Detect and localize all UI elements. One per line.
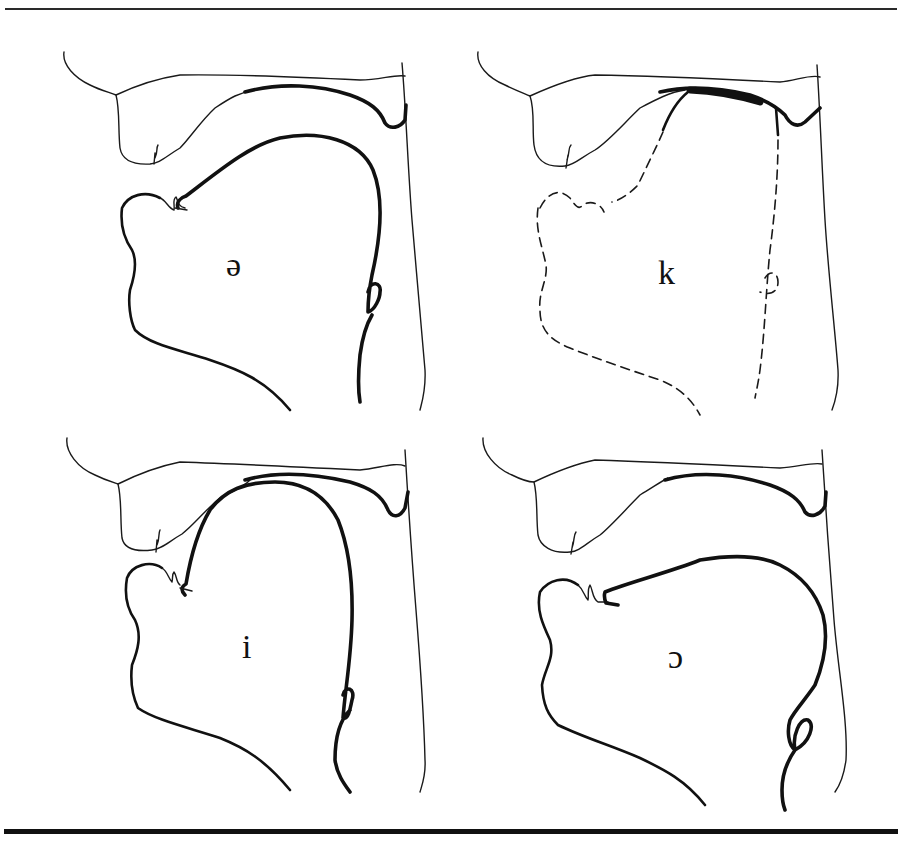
- panel-i: i: [40, 420, 480, 820]
- top-rule: [5, 8, 897, 10]
- phoneme-label-k: k: [658, 256, 675, 290]
- panel-open-o: ɔ: [460, 420, 900, 820]
- vocal-tract-i: [40, 420, 480, 820]
- panel-k: k: [460, 30, 900, 430]
- panel-schwa: ə: [40, 30, 480, 430]
- vocal-tract-open-o: [460, 420, 900, 820]
- vocal-tract-schwa: [40, 30, 480, 430]
- bottom-rule: [4, 829, 898, 834]
- vocal-tract-k: [460, 30, 900, 430]
- phoneme-label-schwa: ə: [226, 248, 241, 282]
- phoneme-label-open-o: ɔ: [668, 640, 683, 674]
- phoneme-label-i: i: [242, 630, 251, 664]
